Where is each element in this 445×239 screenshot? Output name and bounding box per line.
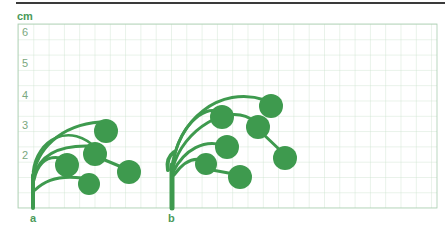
plant-label-a: a — [30, 212, 36, 224]
plant-label-b: b — [168, 212, 175, 224]
measurement-grid-figure — [0, 0, 445, 239]
